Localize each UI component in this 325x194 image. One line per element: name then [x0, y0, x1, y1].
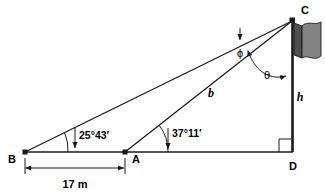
point-label-d: D: [289, 160, 297, 172]
angle-label-theta: θ: [264, 70, 270, 81]
point-label-a: A: [132, 153, 140, 165]
angle-label-phi: ϕ: [237, 48, 244, 59]
point-label-b: B: [8, 153, 16, 165]
vertex-dot-b: [23, 150, 28, 155]
segment-label-h: h: [297, 90, 304, 104]
point-label-c: C: [301, 4, 309, 16]
dimension-label-17m: 17 m: [62, 178, 87, 190]
diagram-canvas: B A D C 25°43′ 37°11′ ϕ θ b h 17 m: [0, 0, 325, 194]
angle-label-a: 37°11′: [172, 127, 202, 139]
segment-label-b: b: [208, 86, 214, 100]
angle-arc-a: [159, 125, 168, 152]
triangle-outline: [25, 20, 293, 152]
dimension-17m: [25, 158, 125, 174]
flag-on-pole: [294, 22, 321, 58]
sightline-bc: [25, 21, 292, 152]
vertex-dot-a: [123, 150, 128, 155]
vertex-dot-c: [290, 18, 296, 24]
flag-fold: [294, 23, 302, 58]
right-angle-marker-d: [279, 139, 292, 152]
geometry-diagram-figure: B A D C 25°43′ 37°11′ ϕ θ b h 17 m: [0, 0, 325, 194]
flag-banner: [302, 22, 321, 58]
angle-label-b: 25°43′: [79, 129, 110, 141]
